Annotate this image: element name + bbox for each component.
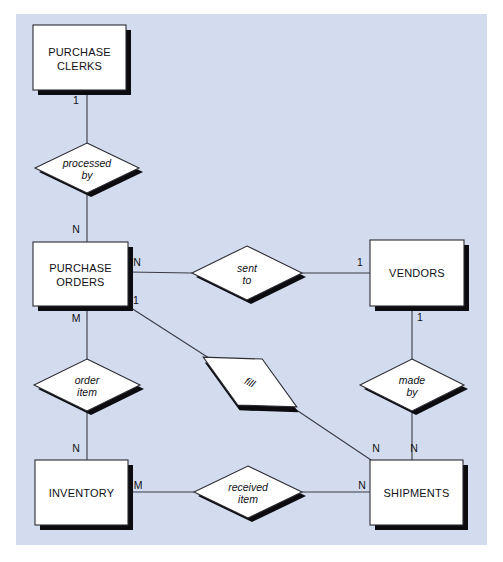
relationship-label: made [399, 374, 425, 386]
connector-fill-shipments [289, 405, 371, 460]
entity-purchase-clerks[interactable]: PURCHASECLERKS [33, 25, 131, 95]
relationship-fill[interactable]: fill [189, 334, 312, 435]
relationship-label-line2: item [77, 386, 97, 398]
entity-vendors[interactable]: VENDORS [370, 240, 469, 311]
cardinality-inventory-to-receiveditem: M [134, 479, 143, 491]
entity-label-line2: CLERKS [57, 60, 102, 72]
relationship-label: order [75, 374, 100, 386]
relationship-order-item[interactable]: orderitem [34, 359, 144, 415]
cardinality-orderitem-to-inventory: N [72, 442, 80, 454]
cardinality-madeby-to-shipments: N [410, 442, 418, 454]
relationship-label: processed [62, 157, 113, 169]
cardinality-sentto-to-vendors: 1 [357, 256, 363, 268]
entity-box[interactable] [33, 25, 126, 90]
er-diagram-canvas: processedbysenttoorderitemfillmadebyrece… [0, 0, 503, 562]
cardinality-orders-to-sentto: N [133, 256, 141, 268]
entity-label-line2: ORDERS [56, 276, 104, 288]
relationship-label-line2: item [238, 493, 258, 505]
cardinality-fill-to-shipments: N [372, 442, 380, 454]
cardinality-vendors-to-madeby: 1 [417, 311, 423, 323]
cardinality-orders-to-fill: 1 [133, 294, 139, 306]
entity-shipments[interactable]: SHIPMENTS [370, 460, 468, 530]
entity-label: PURCHASE [48, 46, 111, 58]
relationship-received-item[interactable]: receiveditem [194, 466, 306, 522]
cardinality-clerks-to-processedby: 1 [73, 94, 79, 106]
entity-purchase-orders[interactable]: PURCHASEORDERS [33, 242, 133, 311]
relationship-label-line2: by [406, 386, 418, 398]
relationship-label: received [228, 481, 269, 493]
entity-label: SHIPMENTS [384, 487, 450, 499]
cardinality-receiveditem-to-shipments: N [358, 479, 366, 491]
relationship-label-line2: by [81, 169, 93, 181]
relationship-label-line2: to [243, 274, 252, 286]
entity-label: VENDORS [389, 267, 445, 279]
relationship-processed-by[interactable]: processedby [35, 143, 143, 197]
cardinality-orders-to-orderitem: M [72, 312, 81, 324]
relationship-sent-to[interactable]: sentto [192, 246, 306, 304]
relationship-label: sent [237, 262, 258, 274]
er-diagram-svg: processedbysenttoorderitemfillmadebyrece… [0, 0, 503, 562]
relationship-made-by[interactable]: madeby [360, 359, 468, 415]
entity-label: PURCHASE [49, 262, 112, 274]
entity-label: INVENTORY [49, 487, 115, 499]
entity-box[interactable] [33, 242, 128, 306]
connector-orders-fill [128, 306, 212, 360]
entity-inventory[interactable]: INVENTORY [35, 460, 133, 530]
cardinality-processedby-to-orders: N [72, 223, 80, 235]
connector-orders-sentto [128, 272, 192, 273]
